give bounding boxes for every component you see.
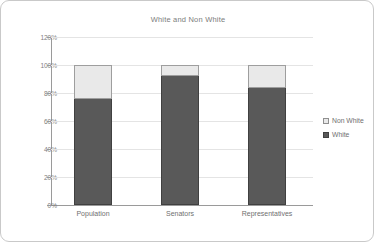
bar-segment-representatives-white[interactable]	[248, 87, 286, 205]
legend-swatch-non-white-icon	[323, 118, 329, 124]
bar-segment-population-non-white[interactable]	[74, 65, 112, 99]
bar-segment-representatives-non-white[interactable]	[248, 65, 286, 88]
bar-group-senators[interactable]	[161, 65, 199, 205]
legend-item-non-white[interactable]: Non White	[323, 117, 364, 124]
plot-area	[51, 37, 313, 205]
bar-segment-senators-white[interactable]	[161, 75, 199, 205]
bar-group-population[interactable]	[74, 65, 112, 205]
legend-item-white[interactable]: White	[323, 131, 364, 138]
x-axis-line	[51, 205, 313, 206]
bar-segment-senators-non-white[interactable]	[161, 65, 199, 76]
legend-label-white: White	[332, 131, 349, 138]
bar-segment-population-white[interactable]	[74, 98, 112, 205]
gridline-120	[51, 37, 313, 38]
chart-legend: Non White White	[323, 117, 364, 145]
chart-title: White and Non White	[1, 15, 374, 24]
legend-swatch-white-icon	[323, 132, 329, 138]
y-tick-mark-0	[47, 205, 51, 206]
chart-container: White and Non White 120% 100% 80% 60% 40…	[0, 0, 374, 242]
legend-label-non-white: Non White	[332, 117, 364, 124]
bar-group-representatives[interactable]	[248, 65, 286, 205]
x-tick-label-representatives: Representatives	[212, 210, 322, 217]
